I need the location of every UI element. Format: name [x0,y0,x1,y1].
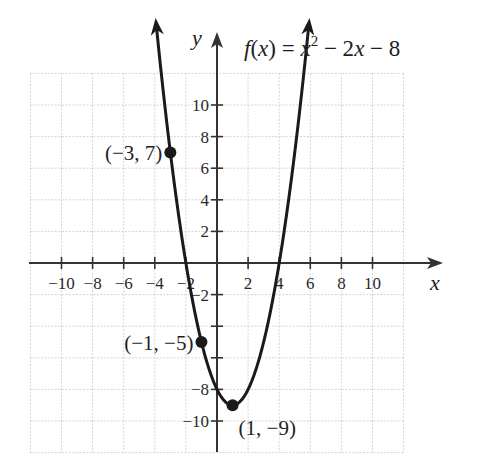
y-tick-label: 8 [201,128,210,147]
y-tick-label: −10 [182,412,209,431]
x-tick-label: −6 [115,274,133,293]
x-tick-label: 10 [364,274,381,293]
data-point [164,146,176,158]
x-tick-label: 6 [306,274,315,293]
y-tick-label: −8 [191,380,209,399]
x-axis-label: x [429,270,440,295]
point-label: (−1, −5) [124,331,193,355]
curve-arrowheads [151,18,314,36]
y-tick-label: 6 [201,159,210,178]
y-axis-label: y [190,25,202,50]
point-label: (1, −9) [239,416,296,440]
function-title: f(x) = x2 − 2x − 8 [244,33,400,61]
y-tick-label: 4 [201,191,210,210]
function-graph: −10−8−6−4−2246810 108642−2−8−10 (−3, 7)(… [0,0,486,465]
x-tick-labels: −10−8−6−4−2246810 [48,274,381,293]
y-tick-label: 2 [201,222,210,241]
x-tick-label: −8 [84,274,102,293]
x-tick-label: −4 [146,274,165,293]
point-label: (−3, 7) [105,141,162,165]
data-point [195,336,207,348]
x-tick-label: 8 [337,274,346,293]
data-point [227,399,239,411]
x-tick-label: −10 [48,274,75,293]
y-tick-label: 10 [192,96,209,115]
x-tick-label: 2 [244,274,253,293]
